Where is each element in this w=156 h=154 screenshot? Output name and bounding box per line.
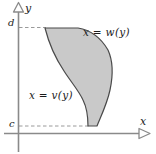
upper-bound-label-d: d <box>8 18 14 28</box>
right-curve-label: x = w(y) <box>83 27 130 38</box>
figure-canvas <box>0 0 156 154</box>
shaded-region <box>45 28 112 126</box>
y-axis-label: y <box>25 3 31 14</box>
left-curve-label: x = v(y) <box>29 90 73 101</box>
y-axis-arrowhead-icon <box>14 3 24 13</box>
figure-region-between-curves: y x d c x = w(y) x = v(y) <box>0 0 156 154</box>
lower-bound-label-c: c <box>9 119 15 129</box>
x-axis-arrowhead-icon <box>139 129 150 139</box>
x-axis-label: x <box>140 116 146 127</box>
